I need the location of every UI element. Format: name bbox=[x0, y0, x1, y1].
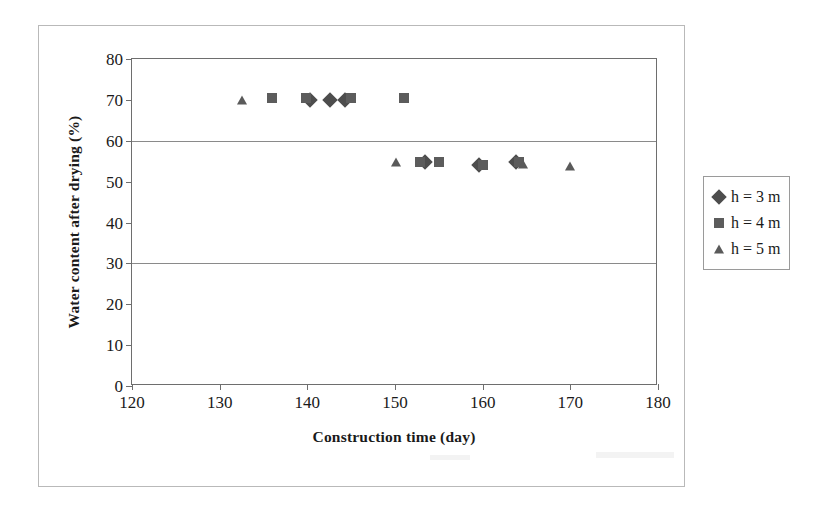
y-axis-tick bbox=[126, 345, 132, 346]
x-axis-tick bbox=[220, 384, 221, 390]
y-axis-tick-label: 40 bbox=[106, 214, 123, 231]
data-point bbox=[434, 157, 444, 167]
x-axis-tick-label: 180 bbox=[645, 394, 671, 411]
x-axis-tick-label: 120 bbox=[119, 394, 145, 411]
chart-legend: h = 3 mh = 4 mh = 5 m bbox=[703, 176, 790, 270]
data-point bbox=[415, 157, 425, 167]
x-axis-tick-label: 140 bbox=[295, 394, 321, 411]
x-axis-title: Construction time (day) bbox=[131, 428, 657, 446]
legend-item-label: h = 5 m bbox=[731, 241, 780, 257]
data-point bbox=[301, 93, 311, 103]
triangle-marker-icon bbox=[714, 245, 724, 254]
x-axis-tick-label: 130 bbox=[207, 394, 233, 411]
legend-item-2: h = 4 m bbox=[711, 210, 780, 236]
legend-marker-key bbox=[711, 241, 727, 257]
x-axis-tick-label: 160 bbox=[470, 394, 496, 411]
data-point bbox=[322, 92, 338, 108]
y-axis-title-label: Water content after drying (%) bbox=[65, 115, 83, 328]
gridline-y bbox=[132, 141, 656, 142]
legend-item-label: h = 3 m bbox=[731, 189, 780, 205]
y-axis-tick bbox=[126, 141, 132, 142]
y-axis-tick-label: 0 bbox=[115, 378, 124, 395]
x-axis-tick bbox=[132, 384, 133, 390]
y-axis-tick bbox=[126, 100, 132, 101]
y-axis-tick bbox=[126, 263, 132, 264]
y-axis-tick-label: 20 bbox=[106, 296, 123, 313]
legend-item-1: h = 3 m bbox=[711, 184, 780, 210]
plot-area: 01020304050607080 120130140150160170180 bbox=[131, 58, 657, 385]
y-axis-tick bbox=[126, 182, 132, 183]
data-point bbox=[391, 158, 401, 167]
square-marker-icon bbox=[714, 218, 724, 228]
legend-item-3: h = 5 m bbox=[711, 236, 780, 262]
y-axis-title: Water content after drying (%) bbox=[64, 58, 84, 385]
legend-item-label: h = 4 m bbox=[731, 215, 780, 231]
y-axis-tick-label: 60 bbox=[106, 132, 123, 149]
data-point bbox=[346, 93, 356, 103]
legend-marker-key bbox=[711, 189, 727, 205]
x-axis-tick-label: 170 bbox=[558, 394, 584, 411]
x-axis-tick bbox=[395, 384, 396, 390]
x-axis-title-label: Construction time (day) bbox=[312, 428, 475, 445]
diamond-marker-icon bbox=[711, 189, 727, 205]
data-point bbox=[478, 160, 488, 170]
data-point bbox=[399, 93, 409, 103]
data-point bbox=[518, 160, 528, 169]
x-axis-tick bbox=[658, 384, 659, 390]
y-axis-tick bbox=[126, 59, 132, 60]
data-point bbox=[565, 161, 575, 170]
x-axis-tick bbox=[483, 384, 484, 390]
legend-marker-key bbox=[711, 215, 727, 231]
data-point bbox=[267, 93, 277, 103]
gridline-y bbox=[132, 263, 656, 264]
y-axis-tick-label: 10 bbox=[106, 337, 123, 354]
y-axis-tick bbox=[126, 304, 132, 305]
y-axis-tick bbox=[126, 223, 132, 224]
x-axis-tick bbox=[307, 384, 308, 390]
x-axis-tick bbox=[570, 384, 571, 390]
y-axis-tick-label: 30 bbox=[106, 255, 123, 272]
chart-canvas: Water content after drying (%) 010203040… bbox=[0, 0, 822, 517]
y-axis-tick-label: 50 bbox=[106, 173, 123, 190]
y-axis-tick-label: 70 bbox=[106, 91, 123, 108]
data-point bbox=[237, 95, 247, 104]
x-axis-tick-label: 150 bbox=[382, 394, 408, 411]
y-axis-tick-label: 80 bbox=[106, 51, 123, 68]
